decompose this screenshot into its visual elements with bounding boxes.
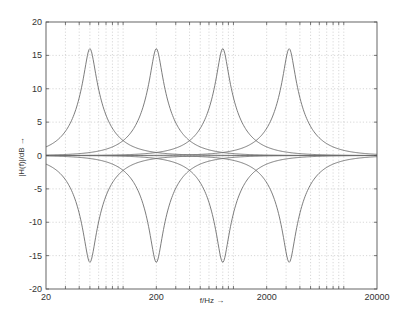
response-curve [46, 49, 377, 156]
response-curve [46, 156, 377, 263]
x-axis-label: f/Hz → [200, 296, 224, 305]
x-tick-label: 2000 [257, 292, 277, 302]
response-curve [46, 49, 377, 156]
response-curve [46, 156, 377, 263]
y-tick-label: 15 [32, 50, 42, 60]
response-curve [46, 49, 377, 156]
y-tick-label: 10 [32, 84, 42, 94]
y-axis-label: |H(f)|/dB → [17, 137, 26, 177]
y-tick-label: -10 [29, 217, 42, 227]
y-tick-labels: -20-15-10-505101520 [29, 17, 42, 294]
y-tick-label: -15 [29, 251, 42, 261]
y-tick-label: 0 [37, 151, 42, 161]
response-curve [46, 49, 377, 156]
y-tick-label: -5 [34, 184, 42, 194]
response-curve [46, 156, 377, 263]
curves [46, 49, 377, 263]
y-tick-label: 20 [32, 17, 42, 27]
eq-magnitude-response-chart: -20-15-10-505101520 20200200020000 f/Hz … [0, 0, 405, 321]
x-tick-label: 200 [149, 292, 164, 302]
response-curve [46, 156, 377, 263]
y-tick-label: 5 [37, 117, 42, 127]
x-tick-label: 20 [41, 292, 51, 302]
x-tick-label: 20000 [364, 292, 389, 302]
